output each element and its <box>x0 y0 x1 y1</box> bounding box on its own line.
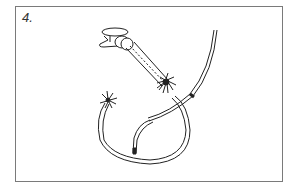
thin-rope <box>133 30 217 154</box>
knot-icon <box>115 36 133 50</box>
thick-rope <box>126 42 168 86</box>
rope-knot-illustration <box>0 0 296 195</box>
rope-loop <box>98 96 190 164</box>
frayed-end-icon <box>157 73 176 93</box>
